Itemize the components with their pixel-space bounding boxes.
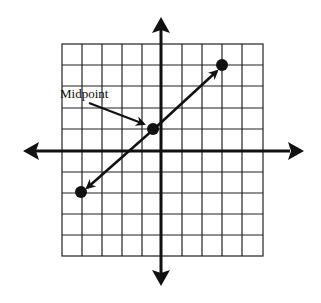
endpoint-b bbox=[75, 186, 87, 198]
midpoint-pointer-arrow bbox=[89, 103, 144, 124]
x-axis-right-arrow-icon bbox=[288, 142, 304, 160]
midpoint-dot bbox=[147, 123, 159, 135]
midpoint-label: Midpoint bbox=[60, 86, 108, 102]
x-axis bbox=[23, 142, 304, 160]
coordinate-plane bbox=[0, 0, 321, 303]
endpoint-a bbox=[216, 59, 228, 71]
